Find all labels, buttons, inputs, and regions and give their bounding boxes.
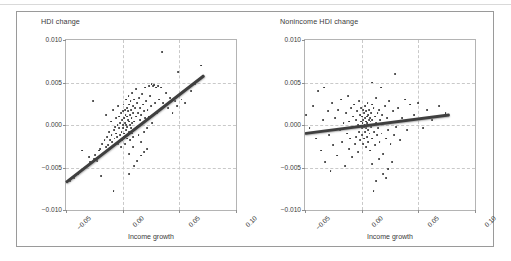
panel-hdi-change: HDI change 0.0100.0050.000−0.005−0.010−0… [17,12,256,248]
scatter-point [124,109,126,111]
scatter-point [376,134,378,136]
scatter-point [113,190,115,192]
scatter-point [381,133,383,135]
scatter-point [105,114,107,116]
scatter-point [129,114,131,116]
y-tick-mark [63,40,66,41]
scatter-point [123,117,125,119]
scatter-point [181,99,183,101]
scatter-point [121,119,123,121]
y-tick-label: −0.005 [281,164,301,171]
gridline-horizontal [305,168,475,169]
scatter-point [379,119,381,121]
scatter-point [343,122,345,124]
scatter-point [351,156,353,158]
x-tick-label: 0.00 [370,215,384,229]
scatter-point [378,109,380,111]
scatter-point [364,105,366,107]
scatter-point [92,100,94,102]
scatter-point [347,95,349,97]
scatter-point [133,99,135,101]
scatter-point [374,144,376,146]
scatter-point [139,107,141,109]
scatter-point [123,104,125,106]
scatter-point [131,92,133,94]
scatter-point [309,127,311,129]
y-tick-label: −0.010 [42,207,62,214]
scatter-point [355,119,357,121]
gridline-vertical [418,40,419,210]
scatter-point [344,165,346,167]
scatter-point [438,105,440,107]
scatter-point [124,143,126,145]
scatter-point [140,155,142,157]
scatter-point [121,131,123,133]
scatter-point [88,156,90,158]
scatter-point [369,133,371,135]
x-tick-mark [362,210,363,213]
scatter-point [413,114,415,116]
scatter-point [349,138,351,140]
scatter-point [138,134,140,136]
scatter-point [371,104,373,106]
scatter-point [305,114,307,116]
scatter-point [111,134,113,136]
plot-area-left: 0.0100.0050.000−0.005−0.010−0.050.000.05… [65,39,237,211]
scatter-point [125,129,127,131]
scatter-point [374,116,376,118]
scatter-point [377,112,379,114]
scatter-point [135,88,137,90]
scatter-point [368,109,370,111]
scatter-point [122,124,124,126]
scatter-point [104,139,106,141]
scatter-point [370,121,372,123]
scatter-point [132,146,134,148]
scatter-point [399,139,401,141]
scatter-point [337,109,339,111]
scatter-point [336,155,338,157]
scatter-point [114,138,116,140]
scatter-point [141,93,143,95]
scatter-point [350,107,352,109]
scatter-point [184,102,186,104]
scatter-point [177,71,179,73]
scatter-point [155,87,157,89]
scatter-point [136,160,138,162]
scatter-point [332,144,334,146]
scatter-point [161,51,163,53]
scatter-point [112,109,114,111]
scatter-point [128,173,130,175]
scatter-point [117,105,119,107]
scatter-point [381,114,383,116]
scatter-point [126,126,128,128]
scatter-point [331,102,333,104]
scatter-point [363,112,365,114]
y-tick-mark [63,83,66,84]
scatter-point [114,126,116,128]
panel-nonincome-hdi-change: Nonincome HDI change 0.0100.0050.000−0.0… [256,12,495,248]
scatter-point [369,117,371,119]
scatter-point [367,129,369,131]
scatter-point [139,119,141,121]
scatter-point [362,109,364,111]
scatter-point [129,139,131,141]
scatter-point [146,127,148,129]
scatter-point [345,112,347,114]
scatter-point [115,133,117,135]
scatter-point [358,131,360,133]
scatter-point [357,151,359,153]
gridline-vertical [179,40,180,210]
x-tick-mark [418,210,419,213]
scatter-point [172,112,174,114]
scatter-point [108,131,110,133]
x-tick-mark [66,210,67,213]
scatter-point [150,105,152,107]
scatter-point [356,136,358,138]
y-tick-label: 0.010 [45,37,62,44]
scatter-point [142,104,144,106]
scatter-point [126,116,128,118]
scatter-point [190,90,192,92]
scatter-point [110,121,112,123]
gridline-horizontal [66,125,236,126]
scatter-point [130,100,132,102]
